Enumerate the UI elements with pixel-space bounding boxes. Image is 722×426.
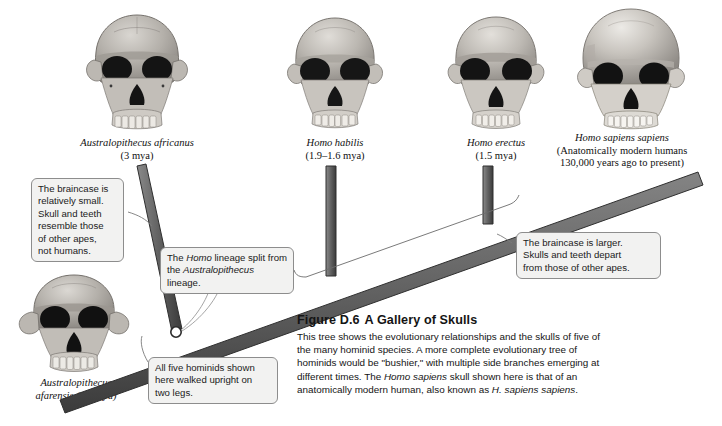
skull-australopithecus-afarensis — [14, 272, 134, 376]
caption-italic: Homo sapiens — [384, 371, 447, 382]
figure-number: Figure D.6 — [297, 313, 360, 327]
callout-text: lineage. — [167, 277, 201, 288]
callout-line: Skulls and teeth depart — [523, 249, 654, 261]
callout-line: resemble those — [38, 220, 117, 232]
callout-line: not humans. — [38, 245, 117, 257]
leader-line-braincase-larger — [497, 234, 512, 243]
callout-text: the — [167, 264, 183, 275]
species-name-line2: afarensis (3.5 mya) — [6, 390, 146, 403]
species-name: Homo habilis — [265, 137, 405, 150]
callout-line-1: The Homo lineage split from — [167, 252, 287, 264]
figure-caption-body: This tree shows the evolutionary relatio… — [297, 330, 615, 396]
species-age: (1.9–1.6 mya) — [265, 150, 405, 163]
callout-braincase-small: The braincase is relatively small. Skull… — [31, 178, 124, 262]
species-age-line2: 130,000 years ago to present) — [523, 157, 721, 170]
callout-text: lineage split from — [212, 252, 287, 263]
species-label-australopithecus-africanus: Australopithecus africanus (3 mya) — [33, 137, 241, 162]
skull-australopithecus-africanus — [84, 12, 190, 134]
callout-line: Skull and teeth — [38, 208, 117, 220]
species-label-homo-habilis: Homo habilis (1.9–1.6 mya) — [265, 137, 405, 162]
callout-upright-walking: All five hominids shown here walked upri… — [148, 357, 278, 404]
tree-branch-homo-habilis — [326, 166, 336, 276]
tree-branch-homo-erectus — [483, 166, 493, 224]
lineage-split-node — [171, 327, 181, 337]
callout-line: The braincase is — [38, 183, 117, 195]
callout-line: of other apes, — [38, 233, 117, 245]
callout-line: The braincase is larger. — [523, 237, 654, 249]
skull-homo-erectus — [446, 14, 546, 132]
callout-text: The — [167, 252, 186, 263]
species-name: Australopithecus — [6, 377, 146, 390]
species-label-homo-sapiens-sapiens: Homo sapiens sapiens (Anatomically moder… — [523, 132, 721, 170]
callout-line: All five hominids shown — [155, 362, 271, 374]
skull-homo-habilis — [285, 14, 385, 132]
callout-lineage-split: The Homo lineage split from the Australo… — [160, 247, 294, 294]
leader-line-braincase-small — [128, 212, 152, 226]
figure-caption-title: Figure D.6A Gallery of Skulls — [297, 312, 615, 328]
callout-italic-australopithecus: Australopithecus — [183, 264, 254, 275]
species-name: Australopithecus africanus — [33, 137, 241, 150]
skull-homo-sapiens-sapiens — [572, 6, 690, 134]
species-age: (Anatomically modern humans — [523, 145, 721, 158]
callout-line-2: the Australopithecus lineage. — [167, 264, 287, 289]
figure-caption: Figure D.6A Gallery of Skulls This tree … — [297, 312, 615, 396]
callout-braincase-larger: The braincase is larger. Skulls and teet… — [516, 232, 661, 279]
callout-line: relatively small. — [38, 195, 117, 207]
species-name: Homo sapiens sapiens — [523, 132, 721, 145]
callout-italic-homo: Homo — [186, 252, 212, 263]
callout-line: two legs. — [155, 387, 271, 399]
figure-title: A Gallery of Skulls — [365, 313, 478, 327]
leader-line-upright-walking — [141, 336, 148, 362]
callout-line: from those of other apes. — [523, 262, 654, 274]
species-age: (3 mya) — [33, 150, 241, 163]
species-label-australopithecus-afarensis: Australopithecus afarensis (3.5 mya) — [6, 377, 146, 402]
figure-gallery-of-skulls: Australopithecus africanus (3 mya) Homo … — [0, 0, 722, 426]
homo-clade-bracket — [294, 195, 519, 277]
caption-italic: H. sapiens sapiens — [492, 384, 575, 395]
callout-line: here walked upright on — [155, 374, 271, 386]
